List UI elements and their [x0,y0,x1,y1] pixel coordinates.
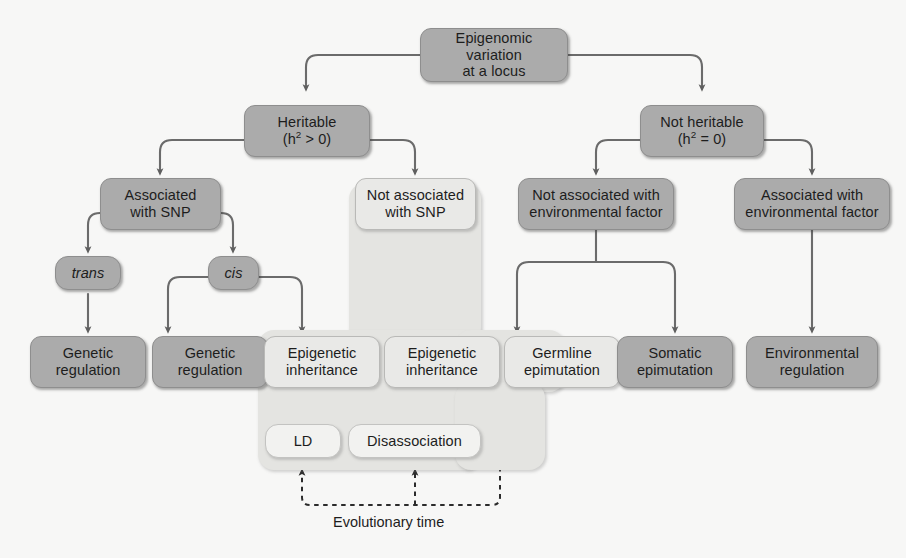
node-heritable-line2: (h2 > 0) [283,131,332,147]
node-ld[interactable]: LD [265,424,341,458]
node-not-assoc-snp-line1: Not associated [367,187,464,203]
node-heritable[interactable]: Heritable (h2 > 0) [244,105,370,157]
node-assoc-env-line1: Associated with [761,187,863,203]
node-not-associated-with-snp[interactable]: Not associated with SNP [355,178,476,230]
node-associated-with-environmental-factor[interactable]: Associated with environmental factor [734,178,890,230]
node-cis-label: cis [218,265,248,282]
node-not-heritable-line1: Not heritable [660,114,744,130]
node-heritable-line1: Heritable [278,114,337,130]
node-not-assoc-env-line2: environmental factor [529,204,662,220]
node-genetic-reg-trans-line1: Genetic [63,345,114,361]
evolutionary-time-caption: Evolutionary time [333,514,444,530]
node-somatic-epi-line1: Somatic [648,345,701,361]
node-disassociation-label: Disassociation [361,433,468,450]
node-trans-label: trans [66,265,111,282]
node-epigenetic-inheritance-no-snp[interactable]: Epigenetic inheritance [384,336,500,388]
node-germline-epi-line2: epimutation [524,362,600,378]
node-genetic-regulation-cis[interactable]: Genetic regulation [152,336,268,388]
node-not-associated-with-environmental-factor[interactable]: Not associated with environmental factor [518,178,674,230]
node-trans[interactable]: trans [55,256,121,290]
node-genetic-reg-trans-line2: regulation [56,362,121,378]
node-cis[interactable]: cis [208,256,259,290]
node-associated-with-snp[interactable]: Associated with SNP [100,178,221,230]
node-genetic-reg-cis-line1: Genetic [185,345,236,361]
node-not-heritable-line2: (h2 = 0) [678,131,727,147]
figure-canvas: Epigenomic variation at a locus Heritabl… [0,0,906,558]
node-assoc-env-line2: environmental factor [745,204,878,220]
node-assoc-snp-line2: with SNP [130,204,190,220]
node-assoc-snp-line1: Associated [125,187,197,203]
node-not-assoc-env-line1: Not associated with [532,187,660,203]
node-not-assoc-snp-line2: with SNP [385,204,445,220]
node-env-reg-line2: regulation [780,362,845,378]
node-environmental-regulation[interactable]: Environmental regulation [746,336,878,388]
node-somatic-epimutation[interactable]: Somatic epimutation [617,336,733,388]
node-genetic-reg-cis-line2: regulation [178,362,243,378]
node-root-line2: at a locus [462,63,525,79]
node-not-heritable[interactable]: Not heritable (h2 = 0) [640,105,764,157]
node-epigenomic-variation[interactable]: Epigenomic variation at a locus [420,28,568,82]
node-epi-inherit-nosnp-line1: Epigenetic [408,345,477,361]
node-epi-inherit-nosnp-line2: inheritance [406,362,478,378]
node-ld-label: LD [288,433,319,450]
node-epi-inherit-cis-line1: Epigenetic [288,345,357,361]
node-epigenetic-inheritance-cis[interactable]: Epigenetic inheritance [264,336,380,388]
node-genetic-regulation-trans[interactable]: Genetic regulation [30,336,146,388]
node-epi-inherit-cis-line2: inheritance [286,362,358,378]
node-env-reg-line1: Environmental [765,345,859,361]
node-root-line1: Epigenomic variation [456,30,533,63]
node-germline-epi-line1: Germline [532,345,592,361]
node-disassociation[interactable]: Disassociation [348,424,481,458]
node-somatic-epi-line2: epimutation [637,362,713,378]
node-germline-epimutation[interactable]: Germline epimutation [504,336,620,388]
